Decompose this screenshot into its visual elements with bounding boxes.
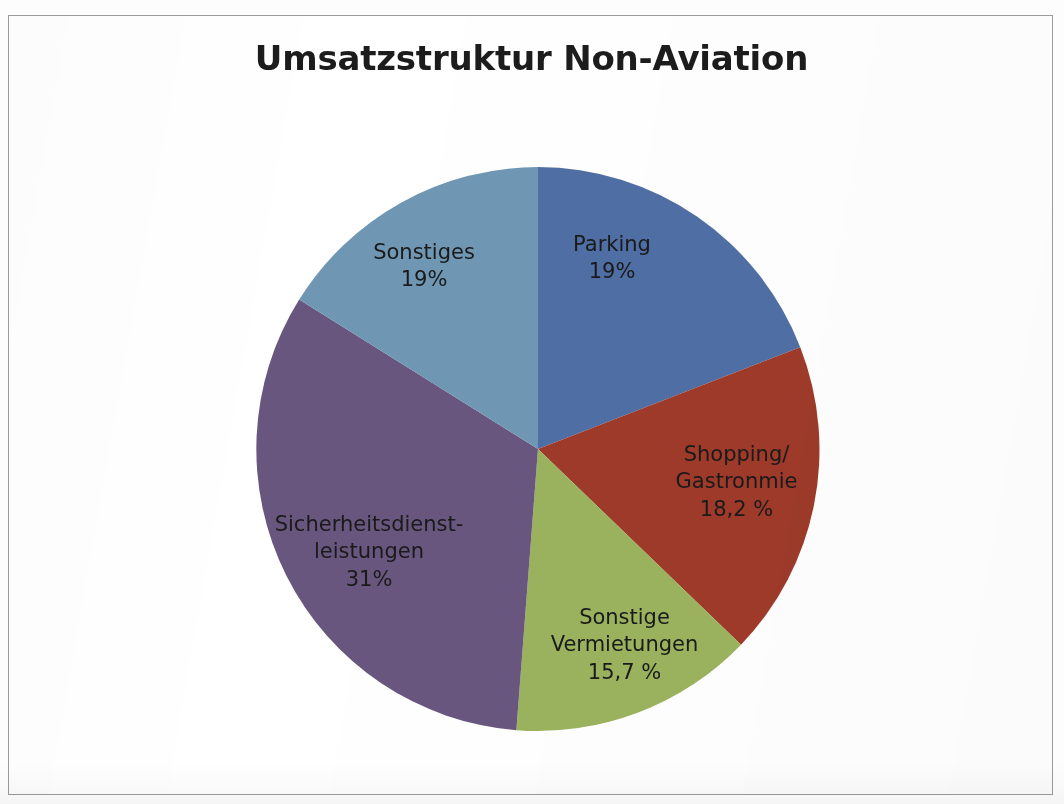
scanned-page: Umsatzstruktur Non-Aviation Parking 19% … [0,0,1064,804]
pie-chart: Parking 19% Shopping/ Gastronmie 18,2 % … [9,16,1054,794]
pie-svg [256,167,820,731]
chart-frame: Umsatzstruktur Non-Aviation Parking 19% … [8,15,1053,795]
